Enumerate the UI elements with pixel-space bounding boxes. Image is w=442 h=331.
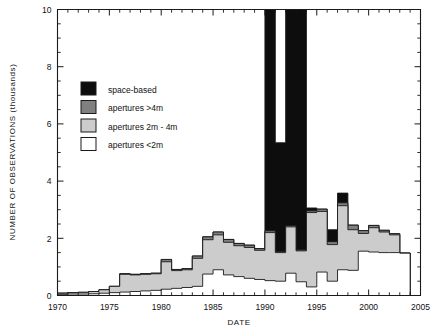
- x-tick-label: 1980: [152, 302, 171, 312]
- x-tick-label: 2000: [359, 302, 378, 312]
- legend-swatch-space-based: [81, 82, 96, 95]
- observations-stacked-area-chart: 197019751980198519901995200020050246810 …: [0, 0, 442, 331]
- y-tick-label: 2: [47, 234, 52, 244]
- legend-swatch-apertures-4m: [81, 101, 96, 114]
- legend-label: space-based: [108, 85, 157, 95]
- y-tick-label: 6: [47, 119, 52, 129]
- y-axis-title: NUMBER OF OBSERVATIONS (thousands): [8, 64, 17, 241]
- legend-swatch-apertures-2m-4m: [81, 119, 96, 132]
- stacked-area-series-group: [58, 10, 411, 296]
- x-tick-label: 1995: [307, 302, 326, 312]
- chart-canvas: 197019751980198519901995200020050246810 …: [0, 0, 442, 331]
- y-tick-label: 8: [47, 62, 52, 72]
- legend-swatch-apertures-2m: [81, 138, 96, 151]
- legend-label: apertures >4m: [108, 103, 163, 113]
- x-tick-label: 1975: [100, 302, 119, 312]
- x-axis-title: DATE: [227, 318, 250, 327]
- legend-label: apertures 2m - 4m: [108, 122, 177, 132]
- x-tick-label: 1985: [204, 302, 223, 312]
- x-tick-label: 2005: [411, 302, 430, 312]
- legend-label: apertures <2m: [108, 140, 163, 150]
- y-tick-label: 10: [42, 5, 52, 15]
- x-tick-label: 1990: [255, 302, 274, 312]
- y-tick-label: 0: [47, 291, 52, 301]
- y-tick-label: 4: [47, 176, 52, 186]
- x-tick-label: 1970: [48, 302, 67, 312]
- legend: space-basedapertures >4mapertures 2m - 4…: [81, 82, 177, 151]
